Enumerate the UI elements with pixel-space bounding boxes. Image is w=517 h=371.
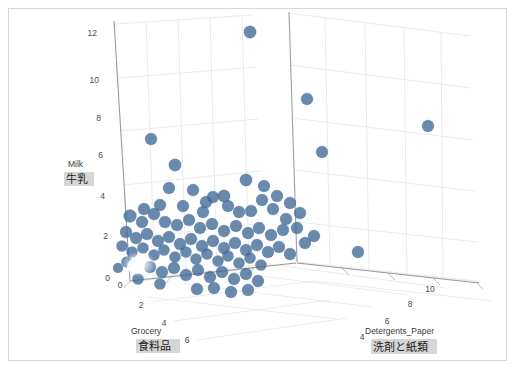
data-point bbox=[218, 225, 230, 237]
axis-tick-label: 2 bbox=[103, 231, 108, 241]
data-point bbox=[169, 251, 180, 262]
data-point bbox=[422, 120, 434, 132]
axis-tick-label: 8 bbox=[96, 113, 101, 123]
data-point bbox=[169, 159, 181, 171]
data-point bbox=[116, 240, 127, 251]
data-point bbox=[222, 250, 233, 261]
data-point bbox=[240, 174, 252, 186]
data-point bbox=[212, 255, 223, 266]
axis-tick-label: 10 bbox=[425, 284, 435, 294]
axis-tick-label: 0 bbox=[118, 280, 123, 290]
data-point bbox=[163, 231, 175, 243]
data-point bbox=[229, 237, 241, 249]
axis-tick-label: 4 bbox=[162, 318, 167, 328]
data-point bbox=[230, 220, 242, 232]
axis-tick-label: 6 bbox=[385, 316, 390, 326]
data-point bbox=[158, 244, 169, 255]
detergents-tick-marks bbox=[342, 268, 483, 289]
milk-axis-ticks: 024681012 bbox=[88, 28, 111, 283]
detergents-axis-label-jp: 洗剤と紙類 bbox=[373, 340, 428, 354]
data-point bbox=[156, 266, 168, 278]
data-point bbox=[183, 214, 195, 226]
data-point bbox=[141, 228, 153, 240]
axis-tick-label: 12 bbox=[88, 28, 98, 38]
data-point bbox=[192, 264, 204, 276]
data-point bbox=[225, 286, 237, 298]
data-point bbox=[291, 222, 303, 234]
data-point bbox=[187, 184, 199, 196]
data-point bbox=[138, 203, 150, 215]
grocery-axis-label-group: Grocery 食料品 bbox=[131, 326, 180, 353]
data-point bbox=[206, 218, 218, 230]
axis-tick-label: 4 bbox=[360, 332, 365, 342]
data-point bbox=[154, 199, 166, 211]
data-point bbox=[233, 206, 245, 218]
data-point bbox=[194, 222, 206, 234]
milk-axis-label-jp: 牛乳 bbox=[66, 172, 88, 186]
axis-tick-label: 2 bbox=[139, 300, 144, 310]
data-point bbox=[245, 205, 257, 217]
detergents-axis-label-en: Detergents_Paper bbox=[365, 326, 434, 336]
data-point bbox=[252, 275, 264, 287]
data-point bbox=[145, 133, 157, 145]
data-point bbox=[280, 213, 292, 225]
data-point bbox=[242, 227, 254, 239]
data-point bbox=[251, 239, 263, 251]
axis-tick-label: 10 bbox=[90, 75, 100, 85]
axis-tick-label: 8 bbox=[408, 299, 413, 309]
data-point bbox=[242, 284, 254, 296]
data-point bbox=[233, 257, 244, 268]
data-point bbox=[168, 262, 180, 274]
data-point bbox=[204, 271, 216, 283]
data-point bbox=[208, 282, 220, 294]
data-point-layer bbox=[113, 26, 434, 298]
data-point bbox=[222, 200, 234, 212]
data-point bbox=[294, 207, 306, 219]
data-point bbox=[267, 203, 279, 215]
data-point bbox=[177, 200, 189, 212]
data-point bbox=[180, 246, 191, 257]
scatter3d-plot: 024681012 0246 46810 Milk 牛乳 Grocery 食料品… bbox=[0, 0, 517, 371]
milk-axis-label-en: Milk bbox=[68, 159, 84, 169]
data-point bbox=[284, 197, 296, 209]
screenshot-root: 024681012 0246 46810 Milk 牛乳 Grocery 食料品… bbox=[0, 0, 517, 371]
data-point bbox=[255, 259, 266, 270]
data-point bbox=[159, 216, 171, 228]
data-point bbox=[273, 241, 285, 253]
data-point bbox=[253, 222, 265, 234]
data-point bbox=[200, 196, 212, 208]
data-point bbox=[244, 26, 256, 38]
data-point bbox=[244, 252, 255, 263]
grocery-axis-label-jp: 食料品 bbox=[138, 339, 171, 353]
axis-tick-label: 6 bbox=[185, 335, 190, 345]
data-point bbox=[185, 233, 197, 245]
data-point bbox=[207, 235, 219, 247]
data-point bbox=[271, 190, 283, 202]
data-point bbox=[190, 253, 201, 264]
data-point bbox=[216, 266, 228, 278]
data-point bbox=[265, 229, 277, 241]
data-point bbox=[228, 273, 240, 285]
data-point bbox=[171, 219, 183, 231]
data-point bbox=[256, 194, 268, 206]
data-point bbox=[316, 146, 328, 158]
data-point bbox=[163, 182, 175, 194]
data-point bbox=[130, 232, 142, 244]
axis-tick-label: 4 bbox=[100, 191, 105, 201]
data-point bbox=[180, 269, 192, 281]
cluster-core-glow-inner bbox=[127, 259, 145, 274]
data-point bbox=[258, 180, 270, 192]
data-point bbox=[240, 268, 252, 280]
data-point bbox=[124, 210, 137, 223]
data-point bbox=[191, 283, 203, 295]
data-point bbox=[284, 248, 296, 260]
data-point bbox=[136, 216, 148, 228]
data-point bbox=[352, 246, 364, 258]
grocery-axis-label-en: Grocery bbox=[131, 326, 162, 336]
data-point bbox=[201, 248, 212, 259]
data-point bbox=[113, 263, 123, 273]
milk-axis-label-group: Milk 牛乳 bbox=[64, 159, 94, 186]
data-point bbox=[301, 93, 313, 105]
data-point bbox=[277, 224, 289, 236]
data-point bbox=[308, 230, 320, 242]
